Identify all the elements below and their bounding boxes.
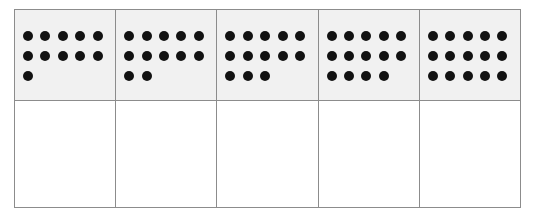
dot-icon <box>142 31 152 41</box>
dot-icon <box>58 31 68 41</box>
answer-cell-1[interactable] <box>15 101 116 207</box>
dot-icon <box>327 31 337 41</box>
dot-icon <box>480 71 490 81</box>
dot-icon <box>344 51 354 61</box>
dot-icon <box>75 31 85 41</box>
dot-row-1 <box>225 26 312 46</box>
dot-icon <box>176 31 186 41</box>
dot-array-cell-3 <box>217 10 318 100</box>
dot-icon <box>260 51 270 61</box>
dot-icon <box>396 31 406 41</box>
dot-icon <box>295 31 305 41</box>
dot-icon <box>225 31 235 41</box>
dot-icon <box>344 31 354 41</box>
answer-cell-2[interactable] <box>116 101 217 207</box>
dot-row-1 <box>124 26 211 46</box>
answer-blank[interactable] <box>420 101 520 207</box>
dot-icon <box>379 71 389 81</box>
dot-icon <box>428 51 438 61</box>
dot-icon <box>93 51 103 61</box>
dot-icon <box>124 71 134 81</box>
dot-icon <box>344 71 354 81</box>
answer-blank[interactable] <box>319 101 419 207</box>
answer-cell-3[interactable] <box>217 101 318 207</box>
dot-icon <box>327 71 337 81</box>
dot-row-3 <box>327 66 397 86</box>
answer-cell-5[interactable] <box>420 101 520 207</box>
dot-icon <box>445 51 455 61</box>
dot-icon <box>428 71 438 81</box>
dot-array-cell-2 <box>116 10 217 100</box>
dot-row-1 <box>327 26 414 46</box>
dot-panel <box>116 10 216 100</box>
dot-panel <box>217 10 317 100</box>
dot-icon <box>75 51 85 61</box>
dot-row-1 <box>23 26 110 46</box>
answer-blank[interactable] <box>15 101 115 207</box>
dot-icon <box>23 51 33 61</box>
dot-icon <box>260 31 270 41</box>
dot-icon <box>124 51 134 61</box>
dot-icon <box>361 71 371 81</box>
table-row-answers <box>15 101 520 207</box>
dot-array-cell-1 <box>15 10 116 100</box>
dot-icon <box>327 51 337 61</box>
dot-icon <box>278 31 288 41</box>
dot-icon <box>40 31 50 41</box>
table-row-dot-arrays <box>15 10 520 101</box>
dot-icon <box>379 31 389 41</box>
dot-icon <box>463 71 473 81</box>
dot-row-3 <box>428 66 515 86</box>
dot-array-cell-5 <box>420 10 520 100</box>
dot-row-2 <box>23 46 110 66</box>
worksheet-canvas <box>0 0 536 219</box>
dot-icon <box>480 31 490 41</box>
dot-icon <box>243 31 253 41</box>
dot-icon <box>40 51 50 61</box>
dot-row-2 <box>327 46 414 66</box>
dot-row-2 <box>428 46 515 66</box>
dot-icon <box>225 51 235 61</box>
dot-icon <box>159 51 169 61</box>
dot-icon <box>278 51 288 61</box>
dot-icon <box>361 31 371 41</box>
dot-icon <box>194 31 204 41</box>
dot-icon <box>142 51 152 61</box>
dot-row-3 <box>23 66 40 86</box>
dot-icon <box>243 71 253 81</box>
dot-panel <box>420 10 520 100</box>
dot-icon <box>260 71 270 81</box>
dot-icon <box>23 71 33 81</box>
dot-icon <box>93 31 103 41</box>
dot-row-3 <box>225 66 277 86</box>
dot-row-1 <box>428 26 515 46</box>
dot-icon <box>396 51 406 61</box>
dot-icon <box>295 51 305 61</box>
dot-icon <box>445 71 455 81</box>
dot-icon <box>497 31 507 41</box>
dot-icon <box>58 51 68 61</box>
dot-icon <box>124 31 134 41</box>
dot-icon <box>445 31 455 41</box>
dot-icon <box>194 51 204 61</box>
dot-icon <box>361 51 371 61</box>
dot-panel <box>319 10 419 100</box>
dot-icon <box>176 51 186 61</box>
dot-icon <box>379 51 389 61</box>
answer-cell-4[interactable] <box>319 101 420 207</box>
dot-icon <box>23 31 33 41</box>
dot-icon <box>463 51 473 61</box>
dot-icon <box>428 31 438 41</box>
dot-icon <box>142 71 152 81</box>
dot-panel <box>15 10 115 100</box>
dot-row-2 <box>124 46 211 66</box>
dot-array-table <box>14 9 521 208</box>
dot-icon <box>480 51 490 61</box>
answer-blank[interactable] <box>116 101 216 207</box>
dot-icon <box>225 71 235 81</box>
dot-icon <box>497 51 507 61</box>
dot-row-2 <box>225 46 312 66</box>
dot-icon <box>159 31 169 41</box>
answer-blank[interactable] <box>217 101 317 207</box>
dot-row-3 <box>124 66 159 86</box>
